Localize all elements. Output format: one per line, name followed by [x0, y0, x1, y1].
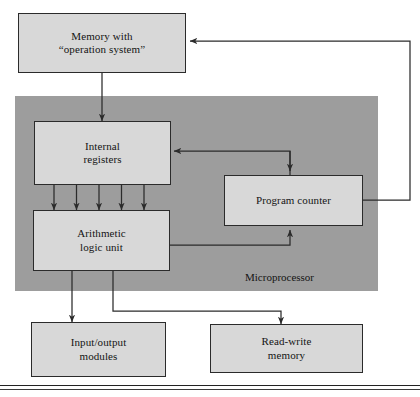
- node-internal-registers[interactable]: Internal registers: [34, 121, 171, 185]
- node-label: Read-write memory: [258, 335, 316, 362]
- node-read-write-memory[interactable]: Read-write memory: [210, 324, 363, 373]
- node-memory-with-operation-system[interactable]: Memory with “operation system”: [18, 13, 186, 73]
- node-label: Arithmetic logic unit: [73, 227, 130, 254]
- page-rule-primary: [0, 385, 420, 386]
- node-input-output-modules[interactable]: Input/output modules: [31, 322, 166, 377]
- node-label: Input/output modules: [67, 336, 131, 363]
- page-rule-secondary: [0, 389, 420, 390]
- node-label: Memory with “operation system”: [55, 30, 149, 57]
- microprocessor-region-caption: Microprocessor: [245, 271, 314, 283]
- node-arithmetic-logic-unit[interactable]: Arithmetic logic unit: [33, 210, 170, 271]
- node-label: Program counter: [252, 194, 335, 207]
- node-program-counter[interactable]: Program counter: [224, 175, 363, 226]
- microprocessor-block-diagram: Memory with “operation system” Internal …: [0, 0, 420, 397]
- node-label: Internal registers: [79, 140, 125, 167]
